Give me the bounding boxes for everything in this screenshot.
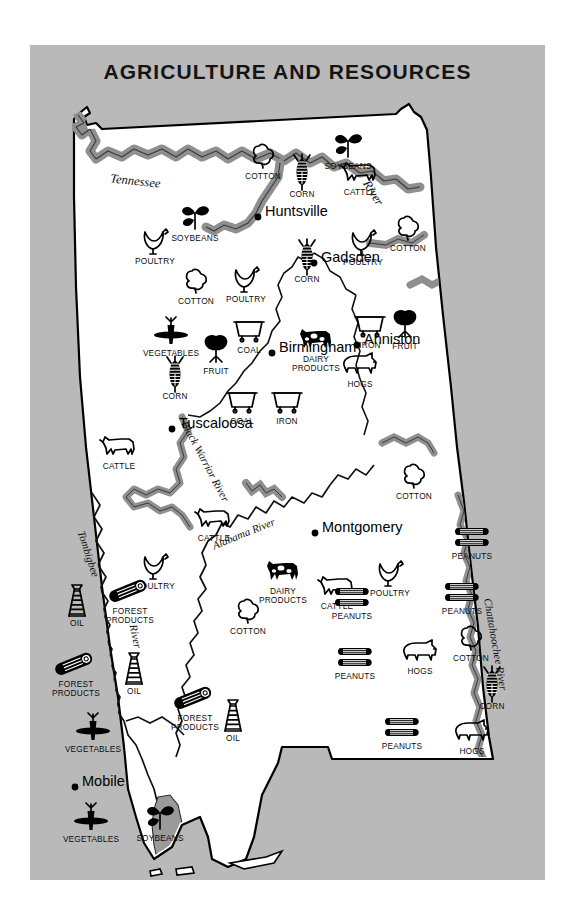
carrot-icon: [76, 713, 110, 740]
city-marker: Montgomery: [312, 519, 404, 536]
resource-label: COAL: [237, 345, 261, 355]
city-dot: [72, 784, 79, 791]
city-label: Tuscaloosa: [179, 415, 254, 431]
map-page: AGRICULTURE AND RESOURCES: [0, 0, 575, 921]
city-label: Huntsville: [265, 203, 328, 219]
oil-derrick-icon: [69, 585, 85, 616]
resource-label: CORN: [479, 701, 504, 711]
resource-label: PRODUCTS: [52, 688, 100, 698]
resource-symbol: PEANUTS: [442, 583, 483, 616]
resource-label: PEANUTS: [382, 741, 423, 751]
resource-label: POULTRY: [226, 294, 266, 304]
resource-label: COTTON: [178, 296, 214, 306]
resource-symbol: OIL: [69, 585, 85, 628]
resource-label: COTTON: [245, 171, 281, 181]
city-dot: [269, 350, 276, 357]
resource-label: PRODUCTS: [106, 615, 154, 625]
city-label: Anniston: [364, 331, 420, 347]
resource-symbol: PEANUTS: [452, 528, 493, 561]
resource-label: COTTON: [390, 243, 426, 253]
resource-label: CATTLE: [344, 187, 377, 197]
city-marker: Huntsville: [255, 203, 328, 220]
city-dot: [311, 260, 318, 267]
resource-label: CATTLE: [198, 533, 231, 543]
log-icon: [53, 651, 94, 677]
resource-label: PEANUTS: [332, 611, 373, 621]
city-marker: Anniston: [354, 331, 421, 348]
resource-label: CATTLE: [103, 461, 136, 471]
city-dot: [354, 342, 361, 349]
resource-label: VEGETABLES: [63, 834, 120, 844]
city-label: Gadsden: [321, 249, 380, 265]
resource-label: CORN: [162, 391, 187, 401]
resource-label: PEANUTS: [452, 551, 493, 561]
resource-label: SOYBEANS: [171, 233, 219, 243]
city-dot: [169, 426, 176, 433]
resource-symbol: FORESTPRODUCTS: [52, 651, 100, 698]
city-marker: Gadsden: [311, 249, 380, 266]
resource-label: FRUIT: [203, 366, 228, 376]
resource-label: OIL: [127, 686, 141, 696]
resource-label: OIL: [70, 618, 84, 628]
alabama-resource-map: Tennessee River Black Warrior River Tomb…: [30, 45, 545, 880]
resource-label: VEGETABLES: [65, 744, 122, 754]
city-marker: Tuscaloosa: [169, 415, 254, 432]
city-marker: Birmingham: [269, 339, 357, 356]
carrot-icon: [74, 803, 108, 830]
city-dot: [312, 530, 319, 537]
city-marker: Mobile: [72, 773, 125, 790]
resource-label: COTTON: [230, 626, 266, 636]
resource-label: HOGS: [407, 666, 432, 676]
resource-label: COTTON: [396, 491, 432, 501]
city-dot: [255, 214, 262, 221]
city-label: Birmingham: [279, 339, 356, 355]
resource-label: IRON: [276, 416, 298, 426]
resource-label: COTTON: [453, 653, 489, 663]
resource-label: SOYBEANS: [136, 833, 184, 843]
resource-label: OIL: [226, 733, 240, 743]
resource-label: VEGETABLES: [143, 348, 200, 358]
resource-label: POULTRY: [135, 256, 175, 266]
resource-symbol: VEGETABLES: [63, 803, 120, 844]
resource-label: SOYBEANS: [324, 161, 372, 171]
resource-label: CORN: [289, 189, 314, 199]
city-label: Mobile: [82, 773, 125, 789]
resource-label: PRODUCTS: [292, 363, 340, 373]
resource-symbol: PEANUTS: [332, 588, 373, 621]
map-svg: Tennessee River Black Warrior River Tomb…: [30, 45, 545, 880]
resource-label: POULTRY: [370, 588, 410, 598]
resource-label: HOGS: [347, 379, 372, 389]
resource-symbol: PEANUTS: [335, 648, 376, 681]
resource-symbol: VEGETABLES: [65, 713, 122, 754]
resource-label: PRODUCTS: [171, 722, 219, 732]
resource-label: CORN: [294, 274, 319, 284]
resource-symbol: PEANUTS: [382, 718, 423, 751]
city-label: Montgomery: [322, 519, 403, 535]
resource-label: PEANUTS: [335, 671, 376, 681]
resource-label: PRODUCTS: [259, 595, 307, 605]
resource-label: HOGS: [459, 746, 484, 756]
resource-label: PEANUTS: [442, 606, 483, 616]
